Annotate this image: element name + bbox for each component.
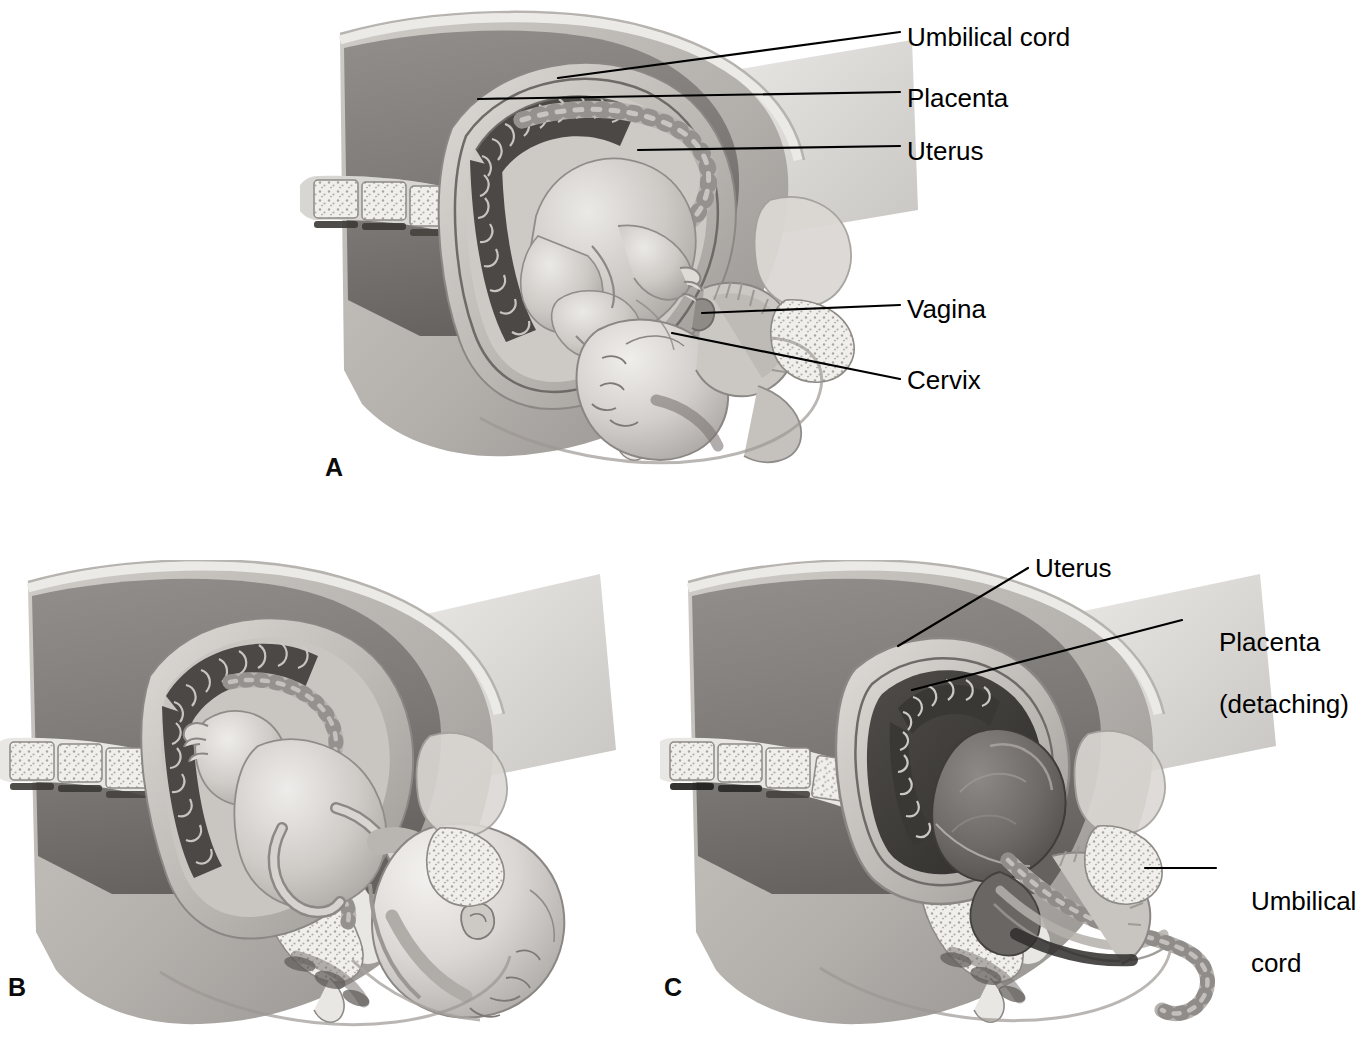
label-vagina-a: Vagina: [907, 294, 986, 325]
label-uterus-c: Uterus: [1035, 553, 1112, 584]
label-umbilical-line2: cord: [1251, 948, 1302, 978]
panel-b-illustration: B: [0, 560, 620, 1030]
panel-b-artwork: [0, 560, 620, 1030]
panel-a-artwork: [300, 0, 920, 470]
label-uterus-a: Uterus: [907, 136, 984, 167]
panel-letter-b: B: [8, 975, 26, 1000]
panel-letter-a: A: [325, 455, 343, 480]
label-umbilical-cord-c: Umbilical cord: [1222, 855, 1356, 1010]
label-umbilical-cord-a: Umbilical cord: [907, 22, 1070, 53]
label-placenta-a: Placenta: [907, 83, 1008, 114]
pubic-bone: [1085, 826, 1162, 904]
label-cervix-a: Cervix: [907, 365, 981, 396]
label-placenta-line1: Placenta: [1219, 627, 1320, 657]
label-placenta-detaching-c: Placenta (detaching): [1190, 596, 1349, 751]
panel-c-illustration: C: [660, 560, 1280, 1030]
panel-a-illustration: A: [300, 0, 920, 470]
label-placenta-line2: (detaching): [1219, 689, 1349, 719]
label-umbilical-line1: Umbilical: [1251, 886, 1356, 916]
panel-letter-c: C: [664, 975, 682, 1000]
panel-c-artwork: [660, 560, 1280, 1030]
